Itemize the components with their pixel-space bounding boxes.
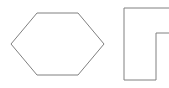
shapes-svg [0,0,169,88]
drawing-canvas [0,0,169,88]
notched-rectangle-shape [124,8,169,80]
hexagon-shape [11,13,104,75]
